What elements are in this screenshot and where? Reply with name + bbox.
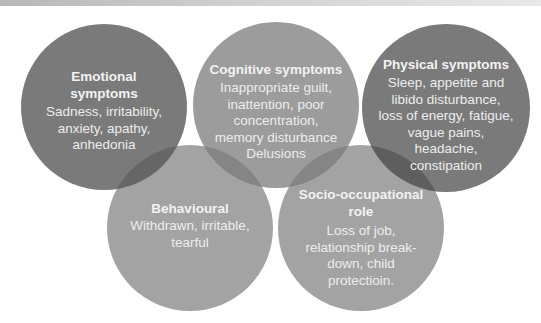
circle-title: Behavioural [120,200,260,217]
label-emotional: Emotional symptoms Sadness, irritability… [34,68,174,154]
label-behavioural: Behavioural Withdrawn, irritable, tearfu… [120,200,260,251]
circle-body: Sadness, irritability, anxiety, apathy, … [34,104,174,154]
label-socio-occupational: Socio-occupational role Loss of job, rel… [291,186,431,289]
label-physical: Physical symptoms Sleep, appetite and li… [376,56,516,174]
circle-title: Cognitive symptoms [201,61,351,78]
circle-body: Withdrawn, irritable, tearful [120,218,260,251]
circle-title: Emotional symptoms [34,68,174,102]
circle-title: Physical symptoms [376,56,516,73]
circle-body: Inappropriate guilt, inattention, poor c… [201,80,351,163]
label-cognitive: Cognitive symptoms Inappropriate guilt, … [201,61,351,163]
circle-body: Loss of job, relationship break- down, c… [291,223,431,289]
circle-body: Sleep, appetite and libido disturbance, … [376,75,516,174]
circle-title: Socio-occupational role [291,186,431,220]
